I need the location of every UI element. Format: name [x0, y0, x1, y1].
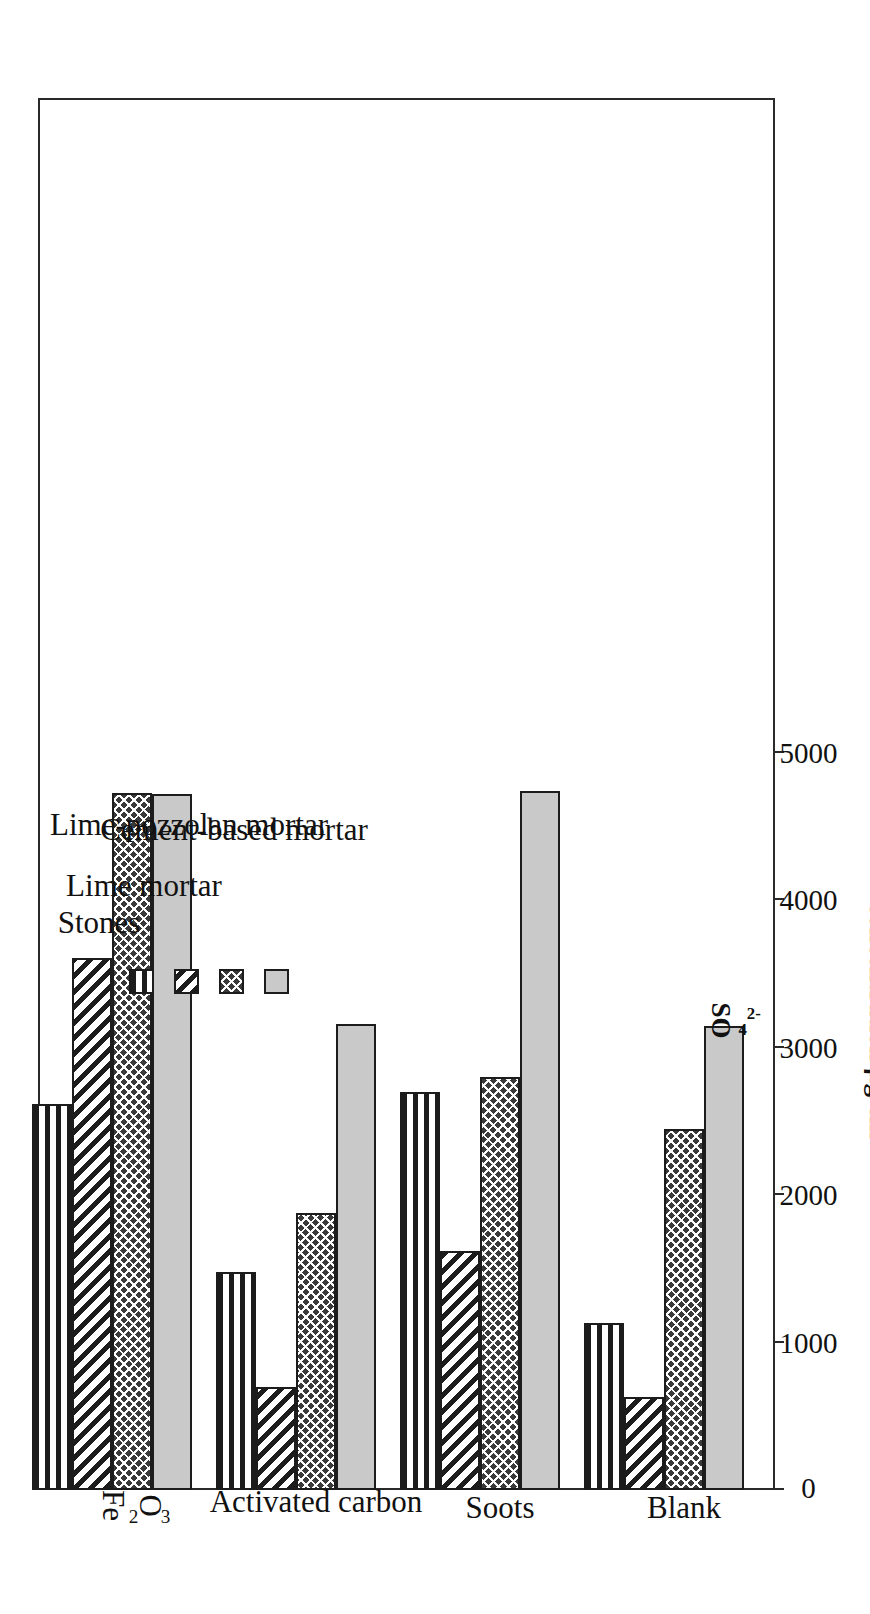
legend-label-lime-mortar: Lime mortar	[126, 764, 162, 964]
legend-label-cement-based-mortar: Cement-based mortar	[216, 634, 252, 964]
plot-frame-right-edge	[38, 98, 775, 100]
bar-chart-figure: 0 1000 2000 3000 4000 5000 SO42- concent…	[0, 0, 870, 1614]
axis-title-superscript: 2-	[747, 1004, 761, 1023]
chart-page: 0 1000 2000 3000 4000 5000 SO42- concent…	[0, 0, 870, 1614]
axis-tick-label-5000: 5000	[792, 705, 825, 801]
bar-blank-lime-pozzolan-mortar[interactable]	[664, 1129, 704, 1490]
bar-activated-carbon-lime-mortar[interactable]	[256, 1387, 296, 1490]
legend-swatch-stones-icon	[129, 969, 154, 994]
bar-soots-cement-based-mortar[interactable]	[520, 791, 560, 1490]
axis-tick-label-2000: 2000	[792, 1147, 825, 1243]
legend-label-lime-pozzolan-mortar: Lime-pozzolan mortar	[171, 634, 207, 964]
bar-fe2o3-stones[interactable]	[32, 1104, 72, 1490]
category-label-activated-carbon: Activated carbon	[298, 1408, 334, 1608]
bar-blank-stones[interactable]	[584, 1323, 624, 1490]
category-label-soots: Soots	[482, 1448, 518, 1568]
axis-tick-0	[775, 1488, 784, 1490]
bar-soots-stones[interactable]	[400, 1092, 440, 1490]
axis-tick-label-0: 0	[792, 1473, 825, 1505]
legend-swatch-lime-pozzolan-icon	[219, 969, 244, 994]
axis-tick-label-4000: 4000	[792, 852, 825, 948]
bar-blank-lime-mortar[interactable]	[624, 1397, 664, 1490]
bar-activated-carbon-stones[interactable]	[216, 1272, 256, 1490]
legend-swatch-cement-based-icon	[264, 969, 289, 994]
bar-blank-cement-based-mortar[interactable]	[704, 1026, 744, 1490]
axis-title-subscript: 4	[738, 1020, 746, 1039]
rotated-figure-wrapper: 0 1000 2000 3000 4000 5000 SO42- concent…	[0, 0, 870, 1614]
value-axis-title: SO42- concentration µg/cm2	[836, 874, 870, 1174]
axis-tick-label-1000: 1000	[792, 1295, 825, 1391]
bar-soots-lime-pozzolan-mortar[interactable]	[480, 1077, 520, 1490]
category-label-fe2o3: Fe2O3	[114, 1448, 154, 1568]
bar-soots-lime-mortar[interactable]	[440, 1251, 480, 1490]
bar-activated-carbon-cement-based-mortar[interactable]	[336, 1024, 376, 1490]
category-label-blank: Blank	[666, 1448, 702, 1568]
bar-fe2o3-lime-mortar[interactable]	[72, 958, 112, 1490]
legend-swatch-lime-mortar-icon	[174, 969, 199, 994]
